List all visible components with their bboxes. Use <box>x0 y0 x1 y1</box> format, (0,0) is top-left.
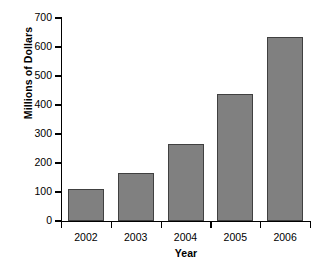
y-axis-tick-label: 500 <box>6 70 52 81</box>
y-axis-tick <box>55 162 62 163</box>
x-axis-tick-label: 2003 <box>108 231 164 243</box>
x-axis-tick-label: 2005 <box>207 231 263 243</box>
y-axis-tick-label: 600 <box>6 41 52 52</box>
y-axis-tick <box>55 46 62 47</box>
bar-2005 <box>217 94 253 221</box>
bar-2002 <box>68 189 104 221</box>
bar-2004 <box>168 144 204 221</box>
y-axis-tick-label: 200 <box>6 157 52 168</box>
y-axis-tick-label: 400 <box>6 99 52 110</box>
y-axis-tick <box>55 191 62 192</box>
y-axis-tick-label: 300 <box>6 128 52 139</box>
x-axis-tick-label: 2004 <box>158 231 214 243</box>
bar-chart: Millions of Dollars 01002003004005006007… <box>0 0 322 271</box>
x-axis-tick <box>161 221 162 228</box>
y-axis-tick <box>55 75 62 76</box>
x-axis-tick-label: 2002 <box>58 231 114 243</box>
bar-2006 <box>267 37 303 221</box>
x-axis-tick <box>260 221 261 228</box>
x-axis-tick <box>210 221 211 228</box>
y-axis-tick <box>55 17 62 18</box>
x-axis-tick <box>111 221 112 228</box>
x-axis-tick-label: 2006 <box>257 231 313 243</box>
y-axis-tick-label: 700 <box>6 12 52 23</box>
y-axis-tick <box>55 133 62 134</box>
y-axis-tick-label: 0 <box>6 215 52 226</box>
x-axis-tick <box>61 221 62 228</box>
x-axis-title: Year <box>61 247 311 259</box>
bar-2003 <box>118 173 154 221</box>
y-axis-tick <box>55 104 62 105</box>
y-axis-tick-label: 100 <box>6 186 52 197</box>
x-axis-tick <box>310 221 311 228</box>
